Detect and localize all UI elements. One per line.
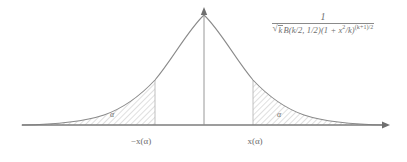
- formula-sqrt-body: k: [278, 25, 284, 35]
- alpha-label-right-tail: α: [277, 110, 281, 119]
- t-distribution-figure: 1 √kB(k/2, 1/2)(1 + x2/k)(k+1)/2 −x(α) x…: [0, 0, 407, 162]
- formula-kernel-tail: /k): [345, 25, 354, 35]
- tick-label-x-alpha: x(α): [227, 136, 283, 146]
- alpha-label-left-tail: α: [110, 110, 114, 119]
- formula-denominator: √kB(k/2, 1/2)(1 + x2/k)(k+1)/2: [272, 24, 375, 35]
- formula-sqrt-group: √k: [273, 25, 284, 35]
- formula-numerator: 1: [272, 12, 375, 23]
- formula-outer-exponent: (k+1)/2: [355, 24, 374, 30]
- x-axis-arrowhead-icon: [382, 122, 390, 129]
- formula-fraction: 1 √kB(k/2, 1/2)(1 + x2/k)(k+1)/2: [272, 12, 375, 35]
- tick-label-negative-x-alpha: −x(α): [113, 136, 169, 146]
- density-formula: 1 √kB(k/2, 1/2)(1 + x2/k)(k+1)/2: [243, 12, 403, 35]
- formula-beta-function: B(k/2, 1/2): [283, 25, 320, 35]
- y-axis-arrowhead-icon: [201, 7, 207, 15]
- radical-icon: √: [273, 24, 278, 34]
- formula-kernel-head: (1 + x: [321, 25, 342, 35]
